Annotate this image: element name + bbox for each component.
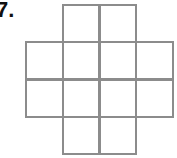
grid-square — [25, 41, 64, 80]
grid-square — [98, 41, 137, 80]
problem-number: 7. — [0, 0, 14, 21]
grid-square — [98, 4, 137, 43]
grid-square — [98, 116, 137, 155]
grid-square — [135, 79, 174, 118]
grid-square — [25, 79, 64, 118]
grid-square — [62, 41, 101, 80]
grid-square — [62, 116, 101, 155]
grid-square — [62, 4, 101, 43]
grid-square — [62, 79, 101, 118]
grid-square — [135, 41, 174, 80]
grid-square — [98, 79, 137, 118]
